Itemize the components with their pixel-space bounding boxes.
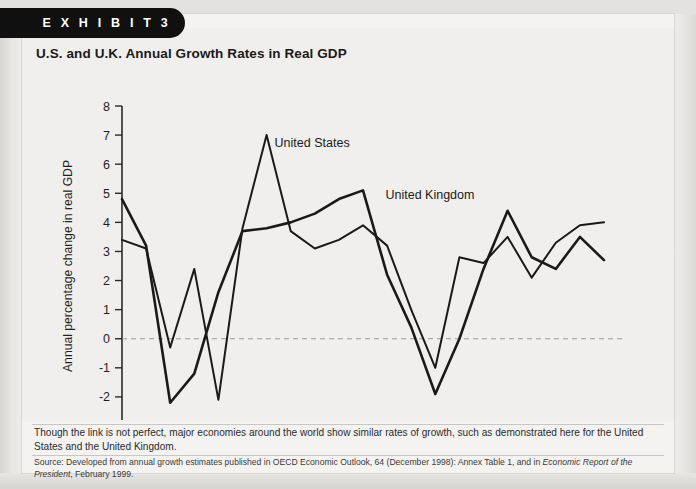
chart-card: U.S. and U.K. Annual Growth Rates in Rea… — [22, 28, 674, 422]
y-tick-label: 0 — [103, 332, 110, 346]
y-tick-label: 1 — [103, 303, 110, 317]
gdp-growth-line-chart: 876543210-1-2-3Annual percentage change … — [22, 68, 674, 420]
caption-divider — [32, 424, 664, 425]
y-tick-label: 3 — [103, 245, 110, 259]
page-edge-right — [674, 0, 696, 489]
page-title: U.S. and U.K. Annual Growth Rates in Rea… — [36, 46, 347, 61]
y-tick-label: -2 — [99, 390, 110, 404]
y-axis-title: Annual percentage change in real GDP — [61, 160, 75, 372]
exhibit-banner: E X H I B I T 3 — [0, 8, 185, 38]
caption-zone: Though the link is not perfect, major ec… — [22, 424, 674, 473]
caption-body: Though the link is not perfect, major ec… — [34, 426, 666, 453]
chart-plot-area: 876543210-1-2-3Annual percentage change … — [22, 68, 674, 420]
y-tick-label: 8 — [103, 100, 110, 114]
y-tick-label: 2 — [103, 274, 110, 288]
y-tick-label: -1 — [99, 361, 110, 375]
page-edge-left — [0, 0, 22, 489]
series-line-united-kingdom — [122, 190, 604, 402]
y-tick-label: 4 — [103, 216, 110, 230]
series-label-united-states: United States — [275, 136, 350, 150]
y-tick-label: -3 — [99, 420, 110, 421]
exhibit-page: E X H I B I T 3 U.S. and U.K. Annual Gro… — [0, 0, 696, 489]
y-tick-label: 7 — [103, 129, 110, 143]
source-prefix: Source: Developed from annual growth est… — [34, 457, 543, 467]
series-label-united-kingdom: United Kingdom — [385, 188, 474, 202]
y-tick-label: 5 — [103, 187, 110, 201]
series-line-united-states — [122, 135, 604, 400]
source-divider — [32, 455, 664, 456]
source-suffix: , February 1999. — [70, 469, 133, 479]
source-note: Source: Developed from annual growth est… — [34, 457, 668, 480]
y-tick-label: 6 — [103, 158, 110, 172]
exhibit-banner-label: E X H I B I T 3 — [0, 8, 171, 38]
